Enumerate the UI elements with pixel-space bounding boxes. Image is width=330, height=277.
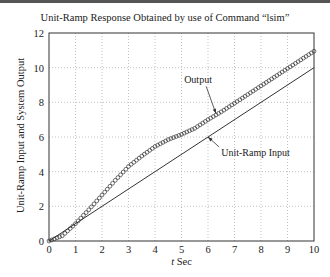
plot-area: 012345678910024681012OutputUnit-Ramp Inp… (0, 0, 330, 277)
output-marker (148, 148, 152, 152)
y-tick-label: 10 (34, 63, 45, 74)
output-marker (132, 160, 136, 164)
output-marker (137, 156, 141, 160)
y-tick-label: 8 (39, 97, 44, 108)
output-marker (150, 147, 154, 151)
y-tick-label: 4 (39, 167, 45, 178)
x-tick-label: 10 (309, 244, 320, 255)
ramp-annotation: Unit-Ramp Input (221, 147, 290, 158)
x-tick-label: 2 (99, 244, 104, 255)
x-tick-label: 0 (46, 244, 51, 255)
x-tick-label: 8 (258, 244, 263, 255)
x-tick-label: 5 (179, 244, 184, 255)
x-tick-label: 7 (232, 244, 237, 255)
output-marker (140, 154, 144, 158)
x-tick-label: 6 (205, 244, 210, 255)
output-marker (143, 152, 147, 156)
output-annotation: Output (184, 74, 212, 85)
x-tick-label: 3 (126, 244, 131, 255)
output-marker (135, 158, 139, 162)
x-tick-label: 1 (73, 244, 78, 255)
y-tick-label: 0 (39, 236, 44, 247)
output-marker (129, 162, 133, 166)
x-tick-label: 4 (152, 244, 158, 255)
y-tick-label: 12 (34, 28, 45, 39)
arrow-head-icon (213, 109, 216, 114)
y-tick-label: 2 (39, 201, 44, 212)
x-tick-label: 9 (285, 244, 290, 255)
output-marker (145, 150, 149, 154)
y-tick-label: 6 (39, 132, 44, 143)
